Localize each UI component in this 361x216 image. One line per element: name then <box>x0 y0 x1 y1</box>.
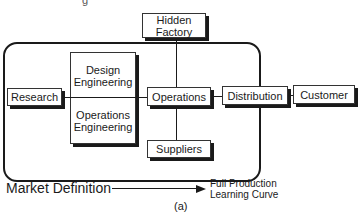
node-distribution-label: Distribution <box>227 90 282 102</box>
node-operations-engineering-line2: Engineering <box>74 121 133 133</box>
node-research-label: Research <box>11 91 58 103</box>
timeline-end-label-line2: Learning Curve <box>210 189 278 200</box>
diagram-canvas: g Hidden Factory Research Design Enginee… <box>0 0 361 216</box>
engineering-divider <box>70 97 136 98</box>
node-hidden-factory-line1: Hidden <box>156 14 193 26</box>
node-engineering-group: Design Engineering Operations Engineerin… <box>70 52 136 144</box>
timeline-arrow-line <box>112 188 198 189</box>
figure-caption: (a) <box>174 200 187 212</box>
node-operations-engineering-line1: Operations <box>74 109 133 121</box>
node-hidden-factory-line2: Factory <box>156 26 193 38</box>
cut-off-text: g <box>82 0 88 6</box>
node-suppliers-label: Suppliers <box>156 143 202 155</box>
node-design-engineering-line2: Engineering <box>74 76 133 88</box>
node-hidden-factory: Hidden Factory <box>142 13 206 38</box>
node-operations: Operations <box>147 87 211 106</box>
node-suppliers: Suppliers <box>147 140 211 158</box>
timeline-end-label-line1: Full Production <box>210 178 278 189</box>
node-distribution: Distribution <box>222 86 288 105</box>
node-research: Research <box>7 88 62 106</box>
timeline-start-label: Market Definition <box>6 180 111 196</box>
node-customer-label: Customer <box>300 89 348 101</box>
node-operations-label: Operations <box>152 91 206 103</box>
node-design-engineering-line1: Design <box>74 64 133 76</box>
connector-operations-distribution <box>212 96 222 97</box>
timeline-arrowhead-icon <box>196 185 206 193</box>
timeline-end-label: Full Production Learning Curve <box>210 178 278 200</box>
node-customer: Customer <box>293 85 355 104</box>
